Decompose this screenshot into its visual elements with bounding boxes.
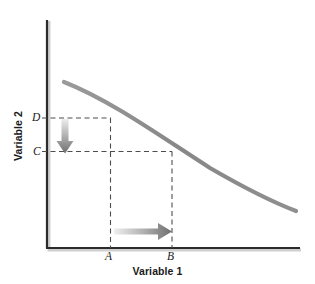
y-axis-title: Variable 2 [12, 86, 24, 186]
y-tick-label-D: D [32, 111, 40, 123]
plot-canvas [0, 0, 315, 284]
y-tick-label-C: C [33, 145, 41, 157]
x-tick-label-B: B [167, 250, 174, 262]
plot-area [47, 21, 300, 248]
x-tick-label-A: A [105, 250, 112, 262]
figure-container: D C A B Variable 1 Variable 2 [0, 0, 315, 284]
x-axis-title: Variable 1 [0, 265, 315, 277]
